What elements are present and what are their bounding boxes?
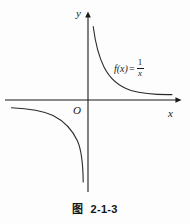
caption-label: 图 xyxy=(72,203,83,215)
x-axis-label: x xyxy=(168,108,173,119)
caption-number: 2-1-3 xyxy=(91,203,118,215)
equals-sign: = xyxy=(129,63,135,74)
fraction-numerator: 1 xyxy=(137,58,144,67)
fraction-one-over-x: 1 x xyxy=(137,58,144,78)
function-annotation: f(x) = 1 x xyxy=(114,58,144,78)
y-axis-label: y xyxy=(76,8,81,19)
fraction-denominator: x xyxy=(137,69,143,78)
hyperbola-plot xyxy=(0,0,190,200)
origin-label: O xyxy=(73,105,81,116)
figure-container: y x O f(x) = 1 x 图2-1-3 xyxy=(0,0,190,224)
function-name: f(x) xyxy=(114,63,128,74)
curve-branch-negative xyxy=(12,108,84,182)
figure-caption: 图2-1-3 xyxy=(0,200,190,216)
